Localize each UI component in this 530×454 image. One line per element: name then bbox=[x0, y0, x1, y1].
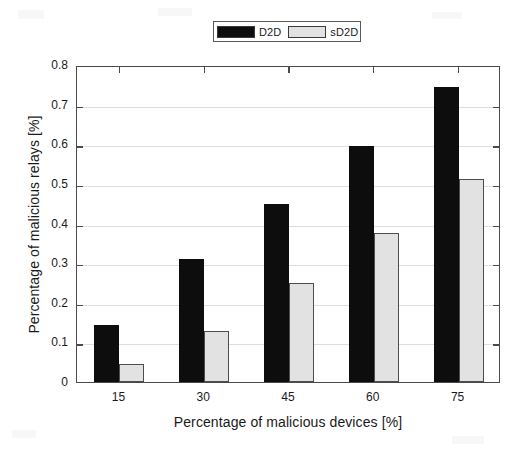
x-axis-tick-label: 45 bbox=[268, 390, 308, 404]
x-axis-title: Percentage of malicious devices [%] bbox=[76, 414, 500, 430]
figure-canvas: D2D sD2D 00.10.20.30.40.50.60.70.8 15304… bbox=[0, 0, 530, 454]
bar-sd2d-30 bbox=[204, 331, 229, 383]
bar-d2d-60 bbox=[349, 146, 374, 382]
bar-sd2d-75 bbox=[459, 179, 484, 382]
chart-legend: D2D sD2D bbox=[213, 21, 361, 42]
scan-artifact bbox=[18, 10, 44, 19]
bar-d2d-45 bbox=[264, 204, 289, 382]
legend-entry-sd2d: sD2D bbox=[288, 22, 365, 41]
scan-artifact bbox=[12, 430, 36, 438]
x-axis-tick-label: 30 bbox=[183, 390, 223, 404]
legend-label-d2d: D2D bbox=[259, 26, 281, 38]
bar-d2d-75 bbox=[434, 87, 459, 382]
bar-series-group bbox=[77, 67, 499, 382]
bar-sd2d-60 bbox=[374, 233, 399, 382]
bar-d2d-15 bbox=[94, 325, 119, 383]
legend-entry-d2d: D2D bbox=[217, 22, 288, 41]
legend-swatch-d2d bbox=[217, 26, 255, 38]
x-axis-tick-label: 15 bbox=[98, 390, 138, 404]
bar-sd2d-45 bbox=[289, 283, 314, 382]
scan-artifact bbox=[452, 436, 484, 444]
plot-area bbox=[76, 66, 500, 383]
scan-artifact bbox=[158, 8, 192, 16]
scan-artifact bbox=[432, 12, 462, 19]
legend-label-sd2d: sD2D bbox=[330, 26, 358, 38]
bar-sd2d-15 bbox=[119, 364, 144, 382]
x-axis-tick-label: 75 bbox=[438, 390, 478, 404]
x-axis-tick-label: 60 bbox=[353, 390, 393, 404]
bar-d2d-30 bbox=[179, 259, 204, 382]
legend-swatch-sd2d bbox=[288, 26, 326, 38]
y-axis-title: Percentage of malicious relays [%] bbox=[26, 66, 42, 383]
